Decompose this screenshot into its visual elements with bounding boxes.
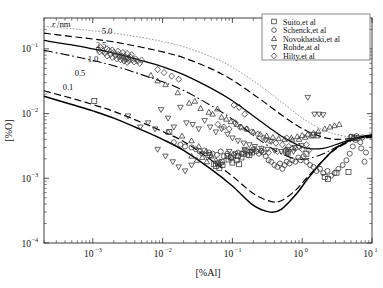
data-point <box>206 109 212 114</box>
x-tick-label: 101 <box>363 246 377 259</box>
y-tick-label-exponent: −1 <box>32 41 39 48</box>
data-point <box>302 134 308 139</box>
y-tick-label: 10−2 <box>22 106 39 119</box>
data-point <box>183 144 188 149</box>
x-tick-label-exponent: 1 <box>375 246 378 253</box>
data-point <box>280 166 285 171</box>
data-point <box>215 106 221 111</box>
x-tick-label-exponent: −2 <box>165 246 172 253</box>
data-point <box>347 151 352 156</box>
curve-label-0.5: 0.5 <box>75 68 86 78</box>
data-point <box>305 95 311 100</box>
data-point <box>155 147 161 152</box>
x-tick-label: 10−1 <box>224 246 242 259</box>
data-point <box>186 100 192 105</box>
oxygen-aluminum-log-log-chart: 10−310−210−110010110−110−210−310−4[%Al][… <box>0 0 383 288</box>
data-point <box>340 163 345 168</box>
x-tick-label: 10−3 <box>84 246 102 259</box>
x-tick-label-base: 10 <box>154 249 164 259</box>
x-tick-label-exponent: −1 <box>235 246 242 253</box>
curve-r-0.1-dashed <box>44 91 372 202</box>
data-point <box>178 105 184 110</box>
data-point <box>169 73 175 79</box>
x-tick-label-base: 10 <box>224 249 234 259</box>
y-tick-label-base: 10 <box>22 109 32 119</box>
curve-r-0.5 <box>44 50 372 159</box>
data-point <box>189 138 195 143</box>
curve-label-0.1: 0.1 <box>63 82 74 92</box>
data-point <box>171 140 176 145</box>
data-point <box>350 144 355 149</box>
curve-group-label-symbol: r <box>52 19 56 29</box>
x-tick-label: 100 <box>293 246 307 259</box>
data-point <box>207 125 213 130</box>
data-point <box>359 146 364 151</box>
data-point <box>165 116 171 121</box>
data-point <box>218 149 223 154</box>
data-point <box>196 144 202 149</box>
x-axis-title: [%Al] <box>196 267 221 278</box>
data-point <box>235 139 241 144</box>
legend: Suito,et alSchenck,et alNovokhatski,et a… <box>262 14 370 61</box>
y-tick-label-exponent: −3 <box>32 171 39 178</box>
x-tick-label-base: 10 <box>84 249 94 259</box>
curve-label-1.0: 1.0 <box>88 54 99 64</box>
data-point <box>179 133 185 138</box>
data-point <box>277 161 282 166</box>
x-tick-label-base: 10 <box>363 249 373 259</box>
y-tick-label: 10−3 <box>22 171 39 184</box>
data-point <box>344 158 349 163</box>
data-point <box>322 126 328 131</box>
data-point <box>337 122 343 127</box>
data-point <box>158 108 164 113</box>
data-point <box>336 166 341 171</box>
data-point <box>327 124 333 129</box>
y-tick-label-exponent: −2 <box>32 106 39 113</box>
data-point <box>287 161 292 166</box>
data-point <box>182 169 188 174</box>
y-tick-label-exponent: −4 <box>32 236 39 243</box>
curve-group-label-unit: /nm <box>57 19 71 29</box>
data-point <box>279 142 285 148</box>
data-point <box>161 69 167 75</box>
legend-label: Hilty,et al <box>283 52 316 61</box>
data-point <box>241 141 247 146</box>
data-point <box>202 119 208 124</box>
y-tick-label: 10−4 <box>22 236 39 249</box>
scatter-group-triangle-up <box>148 72 342 163</box>
data-point <box>178 142 183 147</box>
y-tick-label-base: 10 <box>22 44 32 54</box>
data-point <box>213 130 219 135</box>
data-point <box>242 111 248 117</box>
curve-label-5.0: 5.0 <box>102 26 113 36</box>
data-point <box>326 176 331 181</box>
data-point <box>92 98 97 103</box>
data-point <box>358 140 363 145</box>
data-point <box>329 173 334 178</box>
data-point <box>362 159 367 164</box>
data-point <box>230 136 236 141</box>
x-tick-label-exponent: −3 <box>95 246 102 253</box>
y-tick-label-base: 10 <box>22 239 32 249</box>
x-tick-label-base: 10 <box>293 249 303 259</box>
data-point <box>226 126 232 132</box>
data-point <box>320 113 326 118</box>
x-tick-label-exponent: 0 <box>305 246 308 253</box>
data-point <box>189 163 195 168</box>
data-point <box>190 122 196 127</box>
curve-group-label: r/nm <box>52 19 71 29</box>
data-point <box>225 132 231 137</box>
data-point <box>219 114 225 119</box>
x-tick-label: 10−2 <box>154 246 172 259</box>
y-tick-label-base: 10 <box>22 174 32 184</box>
data-point <box>276 136 282 141</box>
data-point <box>346 170 351 175</box>
data-point <box>247 143 253 148</box>
data-point <box>196 127 202 132</box>
scatter-group-triangle-down <box>125 95 326 173</box>
data-point <box>176 76 182 82</box>
y-tick-label: 10−1 <box>22 41 39 54</box>
data-point <box>176 165 182 170</box>
data-point <box>155 66 161 72</box>
data-point <box>332 123 338 128</box>
